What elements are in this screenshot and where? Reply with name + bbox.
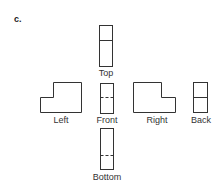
back-view-shape xyxy=(194,83,208,113)
right-view-shape xyxy=(134,83,176,113)
right-label: Right xyxy=(137,115,177,125)
left-label: Left xyxy=(41,115,81,125)
front-view-shape xyxy=(101,84,114,114)
top-label: Top xyxy=(86,68,126,78)
bottom-label: Bottom xyxy=(87,172,127,182)
left-view-shape xyxy=(41,83,82,113)
front-label: Front xyxy=(87,115,127,125)
bottom-view-shape xyxy=(101,129,114,170)
top-view-shape xyxy=(100,26,113,67)
back-label: Back xyxy=(181,115,214,125)
orthographic-views-diagram xyxy=(0,0,214,190)
